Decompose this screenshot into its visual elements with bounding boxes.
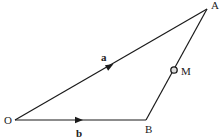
- arrow-b-icon: [75, 117, 83, 123]
- vector-diagram: O A B M a b: [0, 0, 224, 139]
- label-a-point: A: [211, 0, 219, 11]
- label-b-point: B: [145, 123, 152, 135]
- label-o: O: [4, 114, 12, 126]
- label-m: M: [181, 65, 191, 77]
- point-m-marker-icon: [171, 67, 177, 73]
- label-vector-b: b: [76, 127, 82, 139]
- label-vector-a: a: [101, 51, 107, 63]
- segment-ba: [146, 9, 207, 120]
